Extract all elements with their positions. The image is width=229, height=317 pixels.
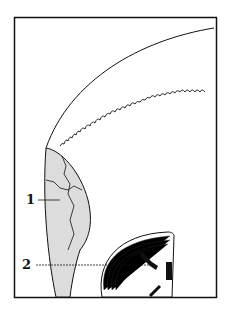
shaded-region [45,148,91,297]
dark-mark-2 [166,262,172,280]
label-2: 2 [22,257,31,272]
outer-arc [46,28,214,148]
wavy-line [60,90,205,146]
label-1: 1 [26,192,35,207]
illustration [0,0,229,317]
